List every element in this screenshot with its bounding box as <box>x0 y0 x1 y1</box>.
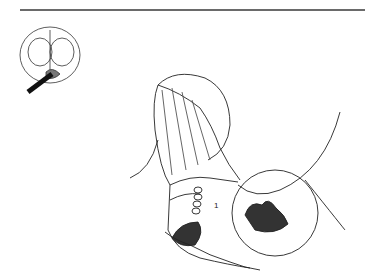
figure-canvas: 1 <box>0 0 366 278</box>
main-illustration <box>130 74 345 270</box>
illustration <box>0 0 366 278</box>
inset-thumbnail <box>20 27 80 92</box>
marker-label-1: 1 <box>214 201 218 210</box>
